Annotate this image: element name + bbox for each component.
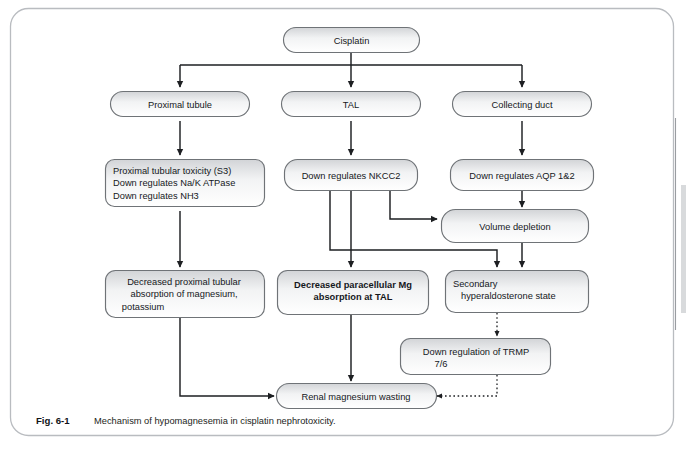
node-proximal-toxicity-line-2: Down regulates NH3 xyxy=(113,191,199,201)
flowchart-svg: Cisplatin Proximal tubule TAL Collecting… xyxy=(0,0,686,452)
node-renal-magnesium-wasting-line-0: Renal magnesium wasting xyxy=(301,392,410,402)
node-decreased-proximal-absorption-line-0: Decreased proximal tubular xyxy=(127,277,241,287)
node-proximal-toxicity-line-0: Proximal tubular toxicity (S3) xyxy=(113,166,231,176)
node-decreased-paracellular-mg: Decreased paracellular Mg absorption at … xyxy=(278,271,429,315)
node-trmp-line-1: 7/6 xyxy=(435,359,448,369)
node-trmp-line-0: Down regulation of TRMP xyxy=(423,347,529,357)
node-decreased-proximal-absorption: Decreased proximal tubular absorption of… xyxy=(106,271,265,318)
node-tal: TAL xyxy=(282,92,421,117)
node-nkcc2: Down regulates NKCC2 xyxy=(285,160,418,191)
node-tal-line-0: TAL xyxy=(343,100,359,110)
node-aqp: Down regulates AQP 1&2 xyxy=(451,160,594,191)
node-trmp: Down regulation of TRMP 7/6 xyxy=(401,339,551,375)
page-edge-block xyxy=(681,185,686,313)
node-decreased-paracellular-mg-line-1: absorption at TAL xyxy=(314,292,393,302)
node-secondary-hyperaldosterone-line-0: Secondary xyxy=(453,279,498,289)
figure-caption-text: Mechanism of hypomagnesemia in cisplatin… xyxy=(94,416,336,426)
node-collecting-duct: Collecting duct xyxy=(453,92,592,117)
node-decreased-paracellular-mg-line-0: Decreased paracellular Mg xyxy=(294,280,412,290)
node-proximal-toxicity: Proximal tubular toxicity (S3) Down regu… xyxy=(106,160,265,207)
node-volume-depletion: Volume depletion xyxy=(442,210,589,243)
node-cisplatin-line-0: Cisplatin xyxy=(334,36,370,46)
node-proximal-toxicity-line-1: Down regulates Na/K ATPase xyxy=(113,178,235,188)
node-aqp-line-0: Down regulates AQP 1&2 xyxy=(469,171,574,181)
node-proximal-tubule: Proximal tubule xyxy=(111,92,250,117)
node-secondary-hyperaldosterone-line-1: hyperaldosterone state xyxy=(461,291,556,301)
figure-caption-label: Fig. 6-1 xyxy=(36,415,70,426)
node-cisplatin: Cisplatin xyxy=(284,28,420,53)
figure-container: Cisplatin Proximal tubule TAL Collecting… xyxy=(0,0,686,452)
node-volume-depletion-line-0: Volume depletion xyxy=(479,222,550,232)
node-decreased-proximal-absorption-line-1: absorption of magnesium, xyxy=(131,289,238,299)
node-renal-magnesium-wasting: Renal magnesium wasting xyxy=(277,384,437,409)
node-collecting-duct-line-0: Collecting duct xyxy=(492,100,553,110)
node-proximal-tubule-line-0: Proximal tubule xyxy=(148,100,212,110)
node-nkcc2-line-0: Down regulates NKCC2 xyxy=(302,171,401,181)
node-secondary-hyperaldosterone: Secondary hyperaldosterone state xyxy=(446,271,589,313)
node-decreased-proximal-absorption-line-2: potassium xyxy=(122,302,165,312)
